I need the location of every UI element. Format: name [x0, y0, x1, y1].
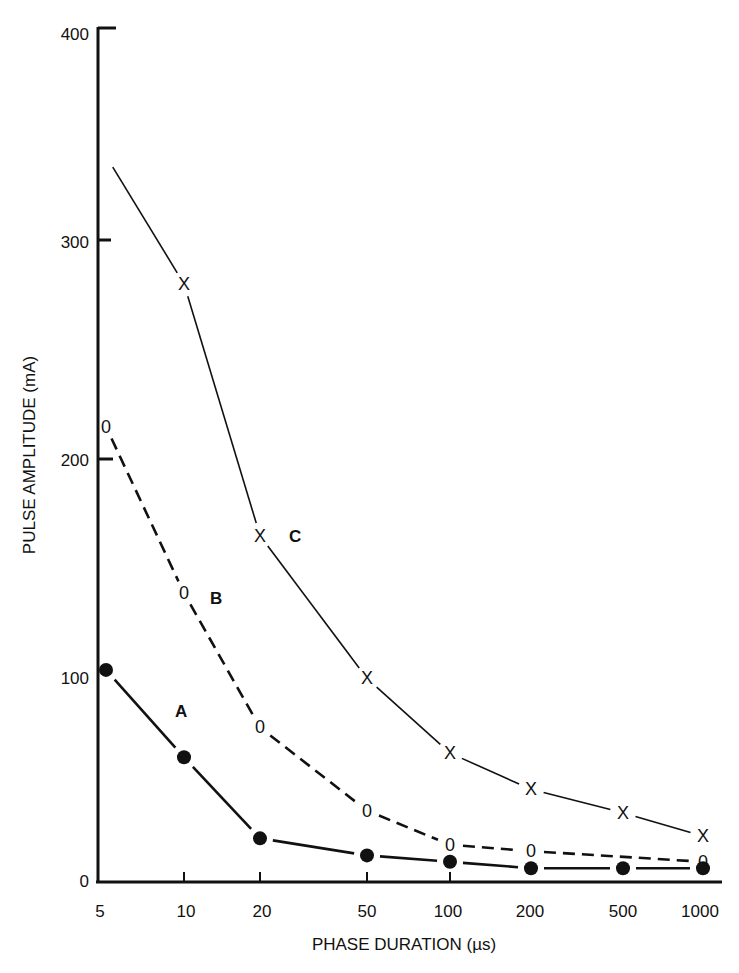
- data-point-marker: X: [254, 526, 266, 546]
- data-point-marker: X: [617, 803, 629, 823]
- series-label-c: C: [289, 527, 301, 546]
- series-line-a: [193, 767, 251, 829]
- data-point-marker: 0: [362, 801, 372, 821]
- series-line-a: [463, 863, 518, 867]
- y-tick-label: 400: [61, 25, 89, 44]
- y-tick-labels: 0100200300400: [61, 25, 89, 891]
- series-line-c: [268, 546, 359, 668]
- data-point-marker: 0: [101, 417, 111, 437]
- data-point-marker: [524, 861, 538, 875]
- series-line-b: [544, 852, 690, 861]
- data-point-marker: [360, 848, 374, 862]
- y-axis-title: PULSE AMPLITUDE (mA): [20, 356, 39, 554]
- y-tick-label: 100: [61, 669, 89, 688]
- chart: 0100200300400 51020501002005001000 PHASE…: [0, 0, 739, 973]
- data-point-marker: 0: [179, 583, 189, 603]
- series-line-c: [544, 793, 611, 810]
- data-point-marker: [99, 663, 113, 677]
- data-point-marker: X: [444, 743, 456, 763]
- x-tick-label: 5: [95, 902, 104, 921]
- data-point-marker: X: [697, 826, 709, 846]
- series-label-a: A: [175, 702, 187, 721]
- series-line-a: [115, 680, 176, 748]
- data-point-marker: X: [178, 274, 190, 294]
- data-point-marker: X: [525, 779, 537, 799]
- series-line-c: [635, 816, 690, 832]
- x-tick-label: 500: [609, 902, 637, 921]
- data-point-marker: 0: [526, 841, 536, 861]
- x-tick-label: 50: [358, 902, 377, 921]
- series-layer: 0000000XXXXXXX: [99, 167, 710, 875]
- data-point-marker: [443, 855, 457, 869]
- data-point-marker: [616, 861, 630, 875]
- x-tick-label: 20: [253, 902, 272, 921]
- data-point-marker: 0: [698, 852, 708, 872]
- series-line-c: [188, 296, 256, 523]
- x-tick-label: 200: [516, 902, 544, 921]
- y-tick-label: 200: [61, 451, 89, 470]
- data-point-marker: X: [361, 668, 373, 688]
- data-point-marker: [177, 750, 191, 764]
- y-tick-label: 0: [80, 872, 89, 891]
- data-point-marker: 0: [445, 835, 455, 855]
- series-line-b: [463, 846, 518, 850]
- series-line-c: [113, 167, 177, 273]
- series-label-b: B: [210, 589, 222, 608]
- series-line-c: [462, 758, 519, 784]
- x-axis-title: PHASE DURATION (µs): [312, 935, 496, 954]
- x-tick-label: 1000: [681, 902, 719, 921]
- x-tick-labels: 51020501002005001000: [95, 902, 719, 921]
- series-line-b: [270, 735, 356, 802]
- series-line-b: [190, 604, 253, 716]
- data-point-marker: [253, 831, 267, 845]
- x-tick-label: 10: [177, 902, 196, 921]
- series-line-a: [380, 856, 437, 860]
- y-tick-label: 300: [61, 233, 89, 252]
- series-line-c: [377, 687, 441, 744]
- x-tick-label: 100: [434, 902, 462, 921]
- series-line-a: [273, 840, 354, 853]
- series-line-b: [379, 816, 438, 840]
- data-point-marker: 0: [255, 717, 265, 737]
- series-line-b: [112, 439, 179, 582]
